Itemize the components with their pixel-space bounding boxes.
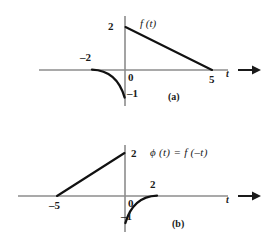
label-b-axis-t: t [226,195,229,205]
label-a-function: f (t) [140,18,156,29]
caption-panel-a: (a) [168,92,180,102]
chart-panel-a: 2 f (t) –2 0 –1 5 t (a) [0,0,267,123]
label-a-y-peak: 2 [108,21,114,32]
curve-a-arc [92,70,125,98]
label-b-function: ϕ (t) = f (–t) [150,147,208,158]
label-b-y-peak: 2 [131,148,137,159]
chart-b-graphics [0,123,267,246]
label-a-x-right-root: 5 [209,74,215,85]
label-b-x-right-root: 2 [150,179,156,190]
label-a-axis-t: t [226,69,229,79]
label-b-y-min: –1 [121,211,132,222]
curve-b-ramp [57,153,125,196]
label-a-x-left-root: –2 [80,52,91,63]
label-b-x-left-root: –5 [49,200,60,211]
x-axis-arrow-head-b [252,192,261,201]
chart-panel-b: 2 ϕ (t) = f (–t) –5 0 –1 2 t (b) [0,123,267,246]
x-axis-arrow-head-a [252,66,261,75]
chart-a-graphics [0,0,267,123]
caption-panel-b: (b) [172,219,184,229]
label-a-y-min: –1 [127,88,138,99]
figure-container: 2 f (t) –2 0 –1 5 t (a) 2 ϕ (t) = f (–t)… [0,0,267,246]
curve-a-ramp [126,27,213,70]
label-b-origin: 0 [128,198,134,209]
label-a-origin: 0 [128,72,134,83]
